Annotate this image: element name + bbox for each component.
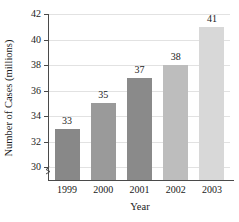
y-axis-tick [44,65,48,66]
y-axis-tick [44,40,48,41]
bars-group: 3335373841 [49,14,230,180]
x-axis-tick-label: 2000 [84,184,123,195]
bar [91,103,116,180]
y-axis-tick [44,91,48,92]
x-axis-tick-label: 2001 [120,184,159,195]
y-axis-tick-label: 42 [19,9,41,19]
plot-area: 30323436384042 3335373841 19992000200120… [48,14,230,174]
bar-value-label: 38 [157,52,194,62]
x-axis-tick-label: 2003 [192,184,231,195]
bar-value-label: 41 [193,14,230,24]
bar [127,78,152,180]
bar [55,129,80,180]
x-axis-tick-label: 2002 [156,184,195,195]
y-axis-tick-label: 34 [19,111,41,121]
bar [199,27,224,180]
y-axis-tick-label: 38 [19,60,41,70]
y-axis-tick [44,14,48,15]
y-axis-tick-label: 40 [19,35,41,45]
y-axis-tick-label: 36 [19,86,41,96]
y-axis-tick-label: 32 [19,137,41,147]
bar-value-label: 33 [49,116,86,126]
y-axis-tick [44,116,48,117]
bar-chart: Number of Cases (millions) 3032343638404… [0,0,239,222]
y-axis-tick-label: 30 [19,162,41,172]
bar-value-label: 37 [121,65,158,75]
y-axis-title: Number of Cases (millions) [2,8,16,188]
x-axis-line [48,180,234,181]
y-axis-tick [44,142,48,143]
bar [163,65,188,180]
x-axis-tick-label: 1999 [48,184,87,195]
y-axis-tick [44,167,48,168]
x-axis-title: Year [60,201,220,212]
bar-value-label: 35 [85,90,122,100]
